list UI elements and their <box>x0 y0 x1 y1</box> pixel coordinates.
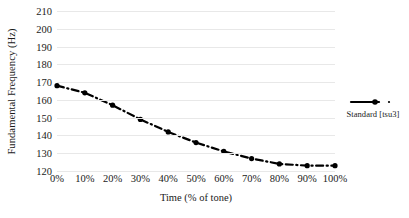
x-axis-title: Time (% of tone) <box>57 192 335 203</box>
legend-marker <box>372 99 378 105</box>
y-axis-title: Fundamental Frequency (Hz) <box>0 0 22 182</box>
y-axis-tick-label: 160 <box>36 94 52 105</box>
data-point-marker <box>110 103 115 108</box>
data-point-marker <box>54 83 59 88</box>
x-axis-tick-label: 20% <box>103 173 122 184</box>
gridline <box>57 11 335 12</box>
y-axis-tick-label: 210 <box>36 6 52 17</box>
gridline <box>57 47 335 48</box>
plot-area <box>57 11 335 171</box>
y-axis-title-text: Fundamental Frequency (Hz) <box>6 28 17 154</box>
y-axis-tick-label: 170 <box>36 77 52 88</box>
gridline <box>57 29 335 30</box>
x-axis-tick-label: 60% <box>214 173 233 184</box>
gridline <box>57 171 335 172</box>
x-axis-tick-label: 80% <box>270 173 289 184</box>
gridline <box>57 82 335 83</box>
y-axis-tick-labels: 120130140150160170180190200210 <box>22 11 55 171</box>
x-axis-tick-label: 30% <box>131 173 150 184</box>
data-point-marker <box>332 163 337 168</box>
y-axis-tick-label: 190 <box>36 41 52 52</box>
data-point-marker <box>305 163 310 168</box>
data-point-marker <box>82 90 87 95</box>
legend-label-standard: Standard [tsu3] <box>337 109 409 119</box>
data-point-marker <box>249 156 254 161</box>
x-axis-tick-labels: 0%10%20%30%40%50%60%70%80%90%100% <box>57 173 335 189</box>
gridline <box>57 135 335 136</box>
gridline <box>57 118 335 119</box>
series-line-standard <box>57 11 335 171</box>
x-axis-tick-label: 50% <box>186 173 205 184</box>
gridline <box>57 153 335 154</box>
data-point-marker <box>166 129 171 134</box>
y-axis-tick-label: 180 <box>36 59 52 70</box>
fundamental-frequency-chart: Fundamental Frequency (Hz) 1201301401501… <box>0 0 409 218</box>
data-point-marker <box>277 161 282 166</box>
x-axis-tick-label: 70% <box>242 173 261 184</box>
x-axis-tick-label: 100% <box>323 173 348 184</box>
legend-dot <box>388 101 390 103</box>
data-point-marker <box>193 140 198 145</box>
x-axis-tick-label: 90% <box>298 173 317 184</box>
gridline <box>57 64 335 65</box>
y-axis-tick-label: 200 <box>36 23 52 34</box>
y-axis-tick-label: 140 <box>36 130 52 141</box>
chart-legend: Standard [tsu3] <box>337 96 409 119</box>
x-axis-tick-label: 40% <box>159 173 178 184</box>
x-axis-tick-label: 0% <box>50 173 64 184</box>
y-axis-tick-label: 130 <box>36 148 52 159</box>
y-axis-tick-label: 150 <box>36 112 52 123</box>
x-axis-tick-label: 10% <box>75 173 94 184</box>
legend-swatch-standard <box>349 96 397 108</box>
gridline <box>57 100 335 101</box>
